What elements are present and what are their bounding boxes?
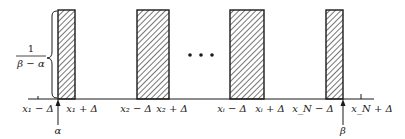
label-x1-plus: x₁ + Δ — [66, 103, 98, 114]
label-x2-minus: x₂ − Δ — [120, 103, 152, 114]
beta-label: β — [339, 125, 346, 136]
height-brace — [47, 11, 57, 98]
pulse-i — [230, 10, 264, 99]
label-xN-minus: x_N − Δ — [292, 103, 333, 115]
pulse-N — [326, 10, 343, 99]
pulse-1 — [58, 10, 75, 99]
alpha-label: α — [55, 125, 62, 136]
label-x2-plus: x₂ + Δ — [156, 103, 188, 114]
fraction-numerator: 1 — [28, 43, 34, 54]
arrow-up-icon — [56, 99, 61, 106]
pulse-2 — [137, 10, 169, 99]
axis-labels: x₁ − Δ x₁ + Δ x₂ − Δ x₂ + Δ xᵢ − Δ xᵢ + … — [22, 103, 392, 115]
fraction-denominator: β − α — [16, 58, 45, 69]
ellipsis-dots — [188, 53, 214, 57]
label-xN-plus: x_N + Δ — [351, 103, 392, 115]
alpha-marker: α — [55, 99, 62, 136]
height-fraction: 1 β − α — [16, 43, 46, 69]
beta-marker: β — [339, 99, 346, 136]
label-xi-minus: xᵢ − Δ — [217, 103, 247, 114]
label-x1-minus: x₁ − Δ — [22, 103, 54, 114]
pulse-train-diagram: 1 β − α x₁ − Δ x₁ + Δ x₂ − Δ x₂ + Δ xᵢ −… — [0, 0, 405, 139]
arrow-up-icon — [341, 99, 346, 106]
label-xi-plus: xᵢ + Δ — [255, 103, 285, 114]
